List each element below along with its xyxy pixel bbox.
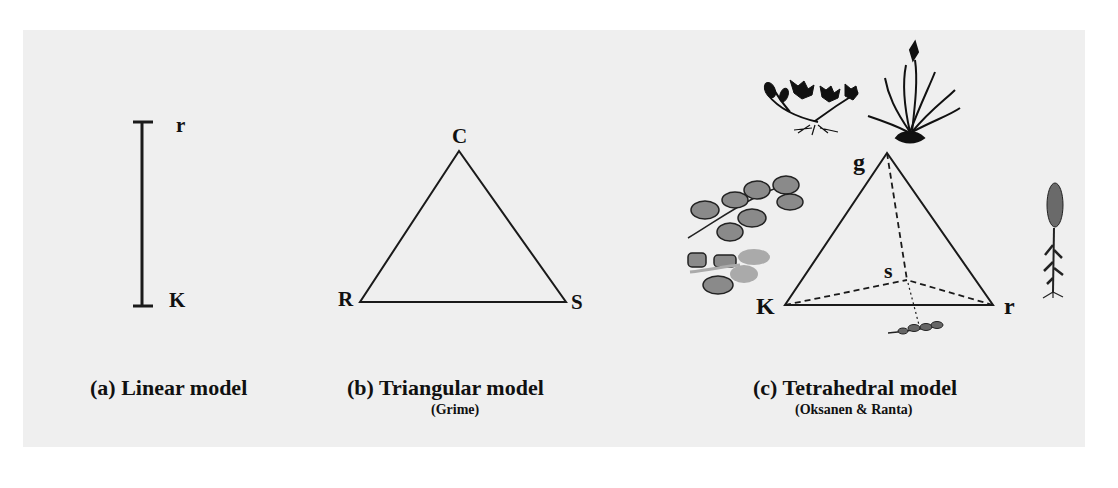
triangle-right-label: S bbox=[571, 292, 583, 313]
subcaption-triangular: (Grime) bbox=[431, 403, 479, 417]
caption-triangular: (b) Triangular model bbox=[347, 377, 544, 399]
tetrahedron-back-label: s bbox=[884, 260, 893, 282]
tetrahedron-right-label: r bbox=[1004, 294, 1015, 318]
triangle-top-label: C bbox=[452, 126, 467, 147]
figure-drawing bbox=[0, 0, 1118, 488]
flowering-spike-plant-icon bbox=[1043, 183, 1063, 298]
linear-bottom-label: K bbox=[169, 290, 185, 311]
linear-axis bbox=[133, 122, 153, 306]
caption-linear: (a) Linear model bbox=[90, 377, 247, 399]
tetrahedron-top-label: g bbox=[853, 150, 865, 174]
grass-tuft-icon bbox=[868, 42, 960, 143]
tetrahedron-left-label: K bbox=[756, 294, 775, 318]
tetrahedron bbox=[785, 153, 993, 325]
subcaption-tetrahedral: (Oksanen & Ranta) bbox=[795, 403, 912, 417]
rosette-plant-icon bbox=[762, 80, 858, 135]
grime-triangle bbox=[360, 151, 566, 302]
leafy-vine-icon bbox=[688, 176, 803, 294]
small-sprig-icon bbox=[888, 322, 943, 335]
linear-top-label: r bbox=[176, 115, 185, 136]
triangle-left-label: R bbox=[338, 289, 353, 310]
caption-tetrahedral: (c) Tetrahedral model bbox=[753, 377, 957, 399]
